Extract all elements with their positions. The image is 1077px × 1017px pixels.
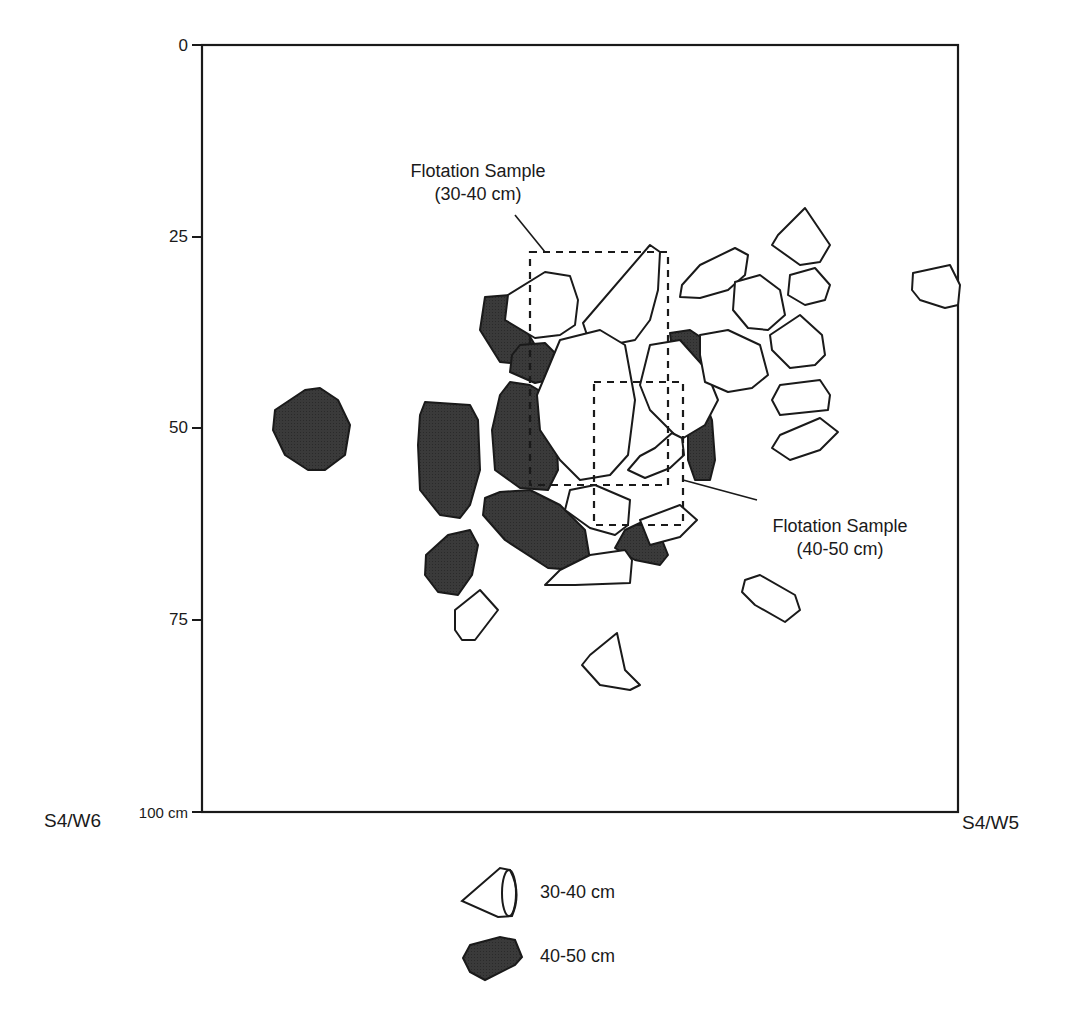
y-tick-100: 100 cm [128,804,188,821]
open-rock [772,208,830,265]
open-rock [582,633,640,690]
dark-rock [273,388,350,470]
y-tick-25: 25 [128,227,188,247]
corner-label-southeast: S4/W5 [962,812,1019,834]
open-rock [742,575,800,622]
open-rock [772,380,830,415]
open-rock [583,245,660,345]
flotation-label-40-50-line2: (40-50 cm) [750,538,930,561]
open-rock [628,433,684,478]
legend-symbols [462,868,522,980]
y-tick-75: 75 [128,610,188,630]
flotation-label-40-50: Flotation Sample (40-50 cm) [750,515,930,561]
dark-rock [425,530,478,595]
open-rock [455,590,498,640]
open-rock [772,418,838,460]
y-tick-50: 50 [128,418,188,438]
legend-label-30-40: 30-40 cm [540,882,615,903]
flotation-label-30-40-line1: Flotation Sample [388,160,568,183]
y-tick-0: 0 [128,36,188,56]
open-rock [788,268,830,305]
dark-rock [418,402,480,518]
open-rock [770,315,825,368]
open-rock [912,265,960,308]
flotation-label-40-50-line1: Flotation Sample [750,515,930,538]
flotation-label-30-40-line2: (30-40 cm) [388,183,568,206]
plan-drawing [0,0,1077,1017]
open-rock [700,330,768,392]
open-rock [733,275,785,330]
unit-plan-figure: 0 25 50 75 100 cm S4/W6 S4/W5 Flotation … [0,0,1077,1017]
flotation-label-30-40: Flotation Sample (30-40 cm) [388,160,568,206]
legend-filled-rock-icon [463,937,522,980]
legend-open-rock-icon [462,868,517,917]
corner-label-southwest: S4/W6 [44,810,101,832]
legend-label-40-50: 40-50 cm [540,946,615,967]
rocks-40-50cm [273,295,715,595]
